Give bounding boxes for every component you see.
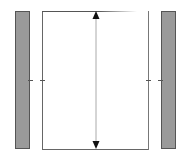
- tick-mark-right-outer: [158, 80, 163, 81]
- diagram-canvas: [0, 0, 187, 158]
- vertical-double-arrow-icon: [90, 10, 102, 150]
- tick-mark-left-inner: [40, 80, 45, 81]
- right-gray-panel: [161, 11, 176, 149]
- tick-mark-left-outer: [28, 80, 33, 81]
- tick-mark-right-inner: [146, 80, 151, 81]
